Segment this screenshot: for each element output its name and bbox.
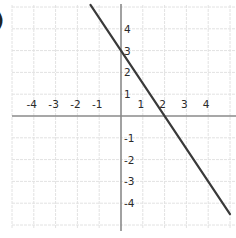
y-tick-label: -2 [124, 154, 134, 166]
x-tick-label: 1 [137, 98, 144, 110]
grid [12, 5, 236, 229]
y-tick-label: 1 [124, 88, 131, 100]
x-tick-label: -2 [70, 98, 80, 110]
x-tick-label: -1 [92, 98, 102, 110]
problem-label: ) [0, 8, 4, 32]
y-tick-label: 4 [124, 23, 131, 35]
y-tick-label: -4 [124, 197, 135, 209]
y-tick-label: 2 [124, 66, 131, 78]
y-tick-label: -1 [124, 132, 134, 144]
x-tick-label: 3 [181, 98, 188, 110]
y-tick-label: -3 [124, 175, 134, 187]
x-tick-label: -3 [48, 98, 58, 110]
x-tick-labels: -4-3-2-11234 [27, 98, 210, 110]
x-tick-label: -4 [27, 98, 38, 110]
x-tick-label: 4 [203, 98, 210, 110]
coordinate-plane: ) -4-3-2-11234 4321-1-2-3-4 [0, 0, 236, 238]
